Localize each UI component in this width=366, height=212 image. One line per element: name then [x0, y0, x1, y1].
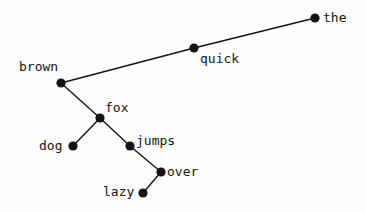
tree-node-dog[interactable]: [68, 141, 77, 150]
tree-node-lazy[interactable]: [138, 188, 147, 197]
tree-node-the[interactable]: [310, 13, 319, 22]
tree-node-jumps[interactable]: [125, 141, 134, 150]
tree-node-over[interactable]: [156, 167, 165, 176]
tree-edge-brown-fox: [61, 83, 100, 118]
tree-node-quick[interactable]: [189, 43, 198, 52]
tree-edge-fox-dog: [73, 118, 100, 146]
tree-edge-fox-jumps: [100, 118, 130, 146]
node-label-jumps: jumps: [136, 134, 175, 147]
tree-graph: [0, 0, 366, 212]
tree-edge-jumps-over: [130, 146, 161, 172]
node-label-quick: quick: [200, 52, 239, 65]
node-label-the: the: [323, 11, 346, 24]
diagram-canvas: thequickbrownfoxdogjumpsoverlazy: [0, 0, 366, 212]
node-label-lazy: lazy: [103, 185, 134, 198]
node-label-brown: brown: [19, 60, 58, 73]
node-label-dog: dog: [39, 139, 62, 152]
tree-node-brown[interactable]: [56, 78, 65, 87]
tree-node-fox[interactable]: [95, 113, 104, 122]
tree-edge-the-quick: [194, 18, 315, 48]
node-label-fox: fox: [105, 101, 128, 114]
node-label-over: over: [167, 165, 198, 178]
tree-edge-quick-brown: [61, 48, 194, 83]
